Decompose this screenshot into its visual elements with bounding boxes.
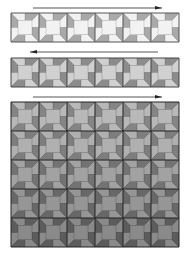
pinwheel-block [151,131,179,160]
pinwheel-block [67,218,95,247]
pinwheel-block [39,218,67,247]
pinwheel-block [11,218,39,247]
assembled-grid [11,102,179,247]
arrowhead-icon [155,6,162,10]
arrowhead-icon [30,50,37,54]
pinwheel-block [11,13,39,42]
pinwheel-block [95,218,123,247]
pinwheel-block [151,189,179,218]
strip-1 [11,13,179,42]
pinwheel-block [39,189,67,218]
block-strips [11,13,179,87]
arrowhead-icon [155,95,162,99]
arrow-2 [30,50,158,54]
pinwheel-block [67,189,95,218]
pinwheel-block [95,131,123,160]
pinwheel-block [123,131,151,160]
pinwheel-block [39,58,67,87]
pinwheel-block [123,218,151,247]
pinwheel-block [11,131,39,160]
pinwheel-block [39,102,67,131]
pinwheel-block [67,131,95,160]
pinwheel-block [39,131,67,160]
pinwheel-block [39,160,67,189]
pinwheel-block [11,102,39,131]
strip-2 [11,58,179,87]
pinwheel-block [11,160,39,189]
pinwheel-block [123,102,151,131]
pinwheel-block [151,218,179,247]
pinwheel-block [123,189,151,218]
pinwheel-block [95,58,123,87]
pinwheel-block [11,189,39,218]
diagram-canvas [0,0,190,260]
quilt-pattern-diagram [0,0,190,260]
pinwheel-block [11,58,39,87]
pinwheel-block [95,13,123,42]
pinwheel-block [67,58,95,87]
pinwheel-block [67,160,95,189]
pinwheel-block [151,102,179,131]
pinwheel-block [123,13,151,42]
pinwheel-block [67,13,95,42]
pinwheel-block [95,102,123,131]
pinwheel-block [151,58,179,87]
pinwheel-block [151,13,179,42]
arrow-1 [33,6,162,10]
arrow-3 [33,95,162,99]
assembled-block-grid [11,102,179,247]
pinwheel-block [95,160,123,189]
pinwheel-block [123,160,151,189]
pinwheel-block [151,160,179,189]
pinwheel-block [123,58,151,87]
pinwheel-block [39,13,67,42]
pinwheel-block [67,102,95,131]
pinwheel-block [95,189,123,218]
